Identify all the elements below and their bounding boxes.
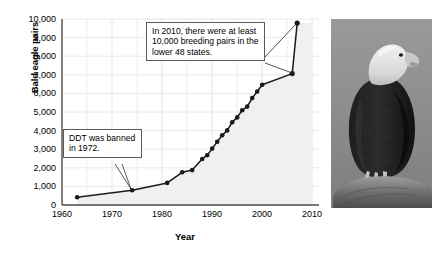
callout-ddt-ban: DDT was banned in 1972. — [63, 129, 142, 158]
callout-2010-breeding-pairs: In 2010, there were at least 10,000 bree… — [146, 22, 265, 61]
eagle-illustration — [331, 19, 432, 208]
callout-2010-leader — [265, 24, 296, 73]
line-chart: Bald eagle pairs Year 10,000 9,000 8,000… — [0, 0, 320, 253]
eagle-eye — [399, 53, 403, 56]
bald-eagle-photo — [331, 19, 432, 208]
bald-eagle-figure: Bald eagle pairs Year 10,000 9,000 8,000… — [0, 0, 443, 253]
